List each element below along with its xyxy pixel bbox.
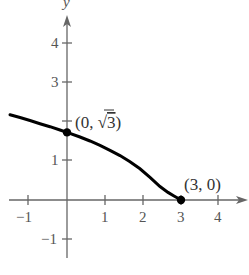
x-tick-label: 3 [177, 209, 185, 225]
x-tick-label: 4 [214, 209, 222, 225]
graph: y −1 1 2 3 4 4 3 1 −1 (0, √3) (3, 0) [0, 0, 249, 275]
y-axis-label: y [61, 0, 70, 10]
point-3-0 [177, 196, 185, 204]
x-tick-label: −1 [16, 209, 32, 225]
point-0-sqrt3 [63, 128, 71, 136]
point-label-3-0: (3, 0) [184, 175, 221, 194]
y-tick-label: 4 [51, 35, 59, 51]
y-tick-label: −1 [41, 231, 57, 247]
x-tick-label: 1 [101, 209, 109, 225]
y-tick-label: 3 [51, 74, 59, 90]
point-label-0-sqrt3: (0, √3) [75, 113, 121, 132]
x-tick-label: 2 [139, 209, 147, 225]
y-tick-label: 1 [51, 152, 59, 168]
